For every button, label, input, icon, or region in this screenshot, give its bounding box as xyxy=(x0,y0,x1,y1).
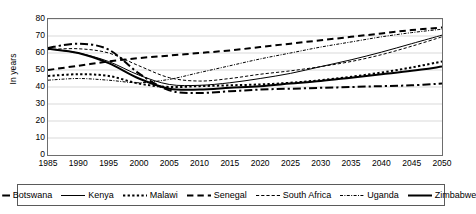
legend-label: South Africa xyxy=(283,191,332,200)
y-tick-80: 80 xyxy=(23,14,45,23)
plot-area xyxy=(47,18,443,156)
legend-label: Malawi xyxy=(150,191,178,200)
legend-label: Kenya xyxy=(88,191,114,200)
y-tick-60: 60 xyxy=(23,48,45,57)
y-tick-10: 10 xyxy=(23,133,45,142)
legend-item-uganda[interactable]: Uganda xyxy=(340,191,399,200)
y-tick-30: 30 xyxy=(23,99,45,108)
legend-item-kenya[interactable]: Kenya xyxy=(61,191,114,200)
plot-lines xyxy=(48,19,442,155)
y-tick-70: 70 xyxy=(23,31,45,40)
y-tick-40: 40 xyxy=(23,82,45,91)
y-tick-20: 20 xyxy=(23,116,45,125)
legend-label: Uganda xyxy=(367,191,399,200)
legend-item-malawi[interactable]: Malawi xyxy=(123,191,178,200)
legend-swatch-senegal xyxy=(187,191,211,200)
legend-item-senegal[interactable]: Senegal xyxy=(187,191,247,200)
legend-swatch-south-africa xyxy=(256,191,280,200)
legend-swatch-malawi xyxy=(123,191,147,200)
y-tick-50: 50 xyxy=(23,65,45,74)
series-line-kenya xyxy=(48,35,442,85)
y-axis-tick-labels: 01020304050607080 xyxy=(15,0,45,176)
legend-swatch-kenya xyxy=(61,191,85,200)
chart-legend: BotswanaKenyaMalawiSenegalSouth AfricaUg… xyxy=(17,184,445,206)
series-line-zimbabwe xyxy=(48,49,442,90)
legend-item-botswana[interactable]: Botswana xyxy=(0,191,52,200)
chart-area: In years 01020304050607080 1985199019952… xyxy=(0,0,464,176)
x-tick-2050: 2050 xyxy=(422,159,462,168)
legend-label: Botswana xyxy=(13,191,53,200)
legend-swatch-botswana xyxy=(0,191,10,200)
legend-label: Senegal xyxy=(214,191,247,200)
legend-item-zimbabwe[interactable]: Zimbabwe xyxy=(408,191,476,200)
legend-label: Zimbabwe xyxy=(435,191,476,200)
legend-swatch-uganda xyxy=(340,191,364,200)
legend-item-south-africa[interactable]: South Africa xyxy=(256,191,332,200)
legend-swatch-zimbabwe xyxy=(408,191,432,200)
